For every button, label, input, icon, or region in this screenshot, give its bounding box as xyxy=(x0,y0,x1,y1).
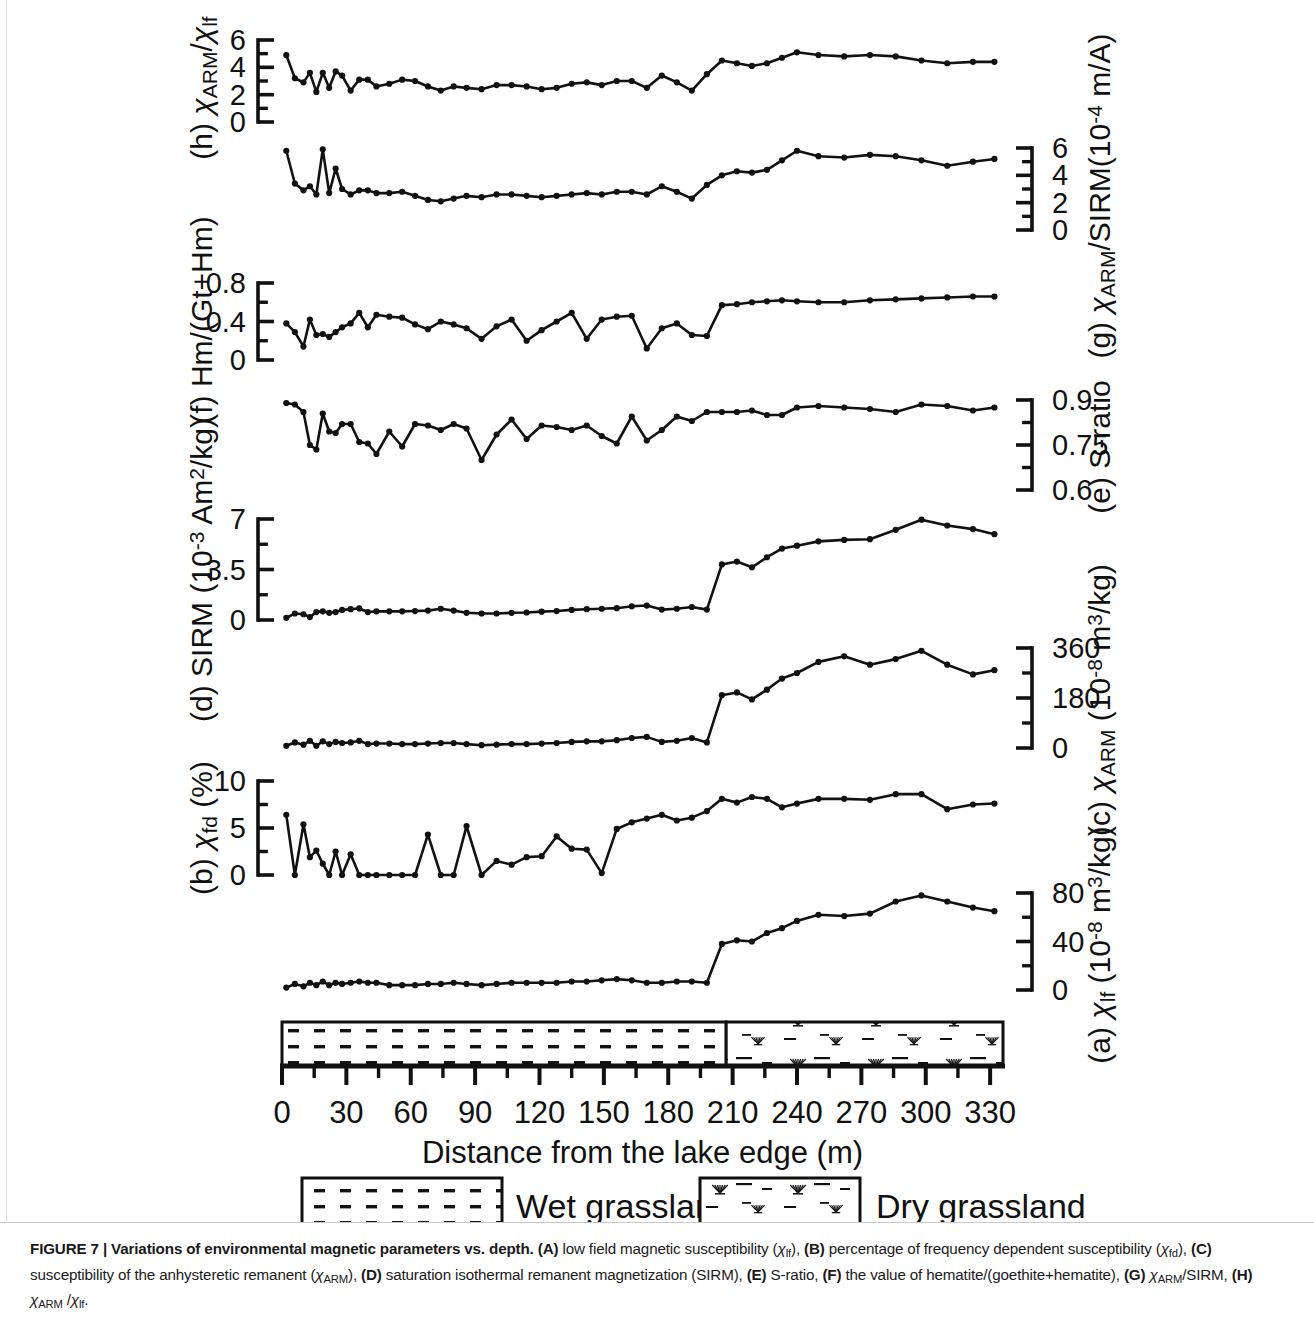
data-point-g xyxy=(689,195,695,201)
data-point-g xyxy=(373,190,379,196)
x-tick-label: 60 xyxy=(394,1095,428,1130)
data-point-c xyxy=(719,692,725,698)
data-point-h xyxy=(815,52,821,58)
data-point-a xyxy=(584,978,590,984)
data-point-h xyxy=(399,77,405,83)
data-point-a xyxy=(365,980,371,986)
data-point-d xyxy=(944,522,950,528)
data-point-b xyxy=(719,796,725,802)
multi-panel-line-chart: 0246024600.40.80.60.750.903.570180360051… xyxy=(0,0,1314,1222)
data-point-a xyxy=(451,980,457,986)
data-point-b xyxy=(704,808,710,814)
data-point-f xyxy=(893,296,899,302)
data-point-e xyxy=(425,422,431,428)
data-point-c xyxy=(320,738,326,744)
data-point-f xyxy=(478,336,484,342)
panel-g: 0246 xyxy=(283,132,1068,246)
data-point-c xyxy=(629,735,635,741)
data-point-d xyxy=(704,607,710,613)
data-point-f xyxy=(779,297,785,303)
y-tick-label-a: 80 xyxy=(1052,877,1084,909)
data-point-g xyxy=(841,154,847,160)
data-point-e xyxy=(348,421,354,427)
data-point-d xyxy=(991,531,997,537)
data-point-a xyxy=(283,984,289,990)
data-point-b xyxy=(970,801,976,807)
panel-h: 0246 xyxy=(230,24,998,138)
data-line-e xyxy=(286,403,994,460)
x-tick-label: 30 xyxy=(329,1095,363,1130)
data-point-c xyxy=(970,671,976,677)
data-point-h xyxy=(509,82,515,88)
panel-label-a: (a) χlf (10-8 m3/kg) xyxy=(1083,826,1119,1063)
data-point-f xyxy=(689,332,695,338)
data-point-a xyxy=(970,904,976,910)
data-point-e xyxy=(451,421,457,427)
data-point-g xyxy=(478,194,484,200)
x-tick-label: 120 xyxy=(514,1095,566,1130)
data-point-c xyxy=(333,739,339,745)
data-point-f xyxy=(867,297,873,303)
data-point-f xyxy=(539,327,545,333)
data-point-b xyxy=(478,872,484,878)
data-point-f xyxy=(841,299,847,305)
data-point-c xyxy=(991,667,997,673)
data-point-g xyxy=(584,190,590,196)
data-point-c xyxy=(614,737,620,743)
data-point-e xyxy=(307,442,313,448)
data-point-g xyxy=(300,187,306,193)
data-point-a xyxy=(463,981,469,987)
data-point-b xyxy=(991,800,997,806)
data-point-c xyxy=(493,742,499,748)
data-point-h xyxy=(689,87,695,93)
data-point-a xyxy=(524,980,530,986)
data-point-g xyxy=(764,167,770,173)
data-point-d xyxy=(425,608,431,614)
y-axis-g: 0246 xyxy=(1016,132,1068,246)
y-tick-label-a: 40 xyxy=(1052,926,1084,958)
data-point-b xyxy=(451,872,457,878)
data-point-c xyxy=(292,739,298,745)
panel-label-h: (h) χARM/χlf xyxy=(185,16,221,159)
data-point-h xyxy=(365,77,371,83)
data-point-g xyxy=(425,197,431,203)
data-point-a xyxy=(599,977,605,983)
data-point-f xyxy=(764,298,770,304)
data-point-b xyxy=(399,872,405,878)
panel-label-b: (b) χfd (%) xyxy=(185,761,221,895)
data-point-f xyxy=(734,301,740,307)
data-point-h xyxy=(704,71,710,77)
data-point-e xyxy=(719,409,725,415)
data-point-d xyxy=(893,527,899,533)
data-point-e xyxy=(365,440,371,446)
data-point-a xyxy=(734,937,740,943)
data-line-d xyxy=(286,520,994,618)
data-point-a xyxy=(764,930,770,936)
data-point-a xyxy=(704,980,710,986)
data-point-e xyxy=(478,457,484,463)
data-point-e xyxy=(386,428,392,434)
y-tick-label-b: 10 xyxy=(214,765,246,797)
data-point-b xyxy=(841,796,847,802)
data-point-a xyxy=(373,980,379,986)
data-point-c xyxy=(326,741,332,747)
data-point-c xyxy=(313,743,319,749)
data-point-e xyxy=(991,404,997,410)
data-point-e xyxy=(704,409,710,415)
x-tick-label: 150 xyxy=(578,1095,630,1130)
data-point-g xyxy=(867,152,873,158)
data-point-g xyxy=(509,191,515,197)
legend-label-dry-grassland: Dry grassland xyxy=(876,1187,1086,1222)
data-point-f xyxy=(524,338,530,344)
data-point-c xyxy=(438,740,444,746)
data-point-b xyxy=(554,833,560,839)
data-point-g xyxy=(629,189,635,195)
data-point-b xyxy=(734,800,740,806)
y-tick-label-f: 0 xyxy=(230,344,246,376)
data-point-g xyxy=(719,172,725,178)
data-point-f xyxy=(493,323,499,329)
data-point-e xyxy=(815,403,821,409)
x-tick-label: 240 xyxy=(771,1095,823,1130)
data-point-g xyxy=(348,191,354,197)
data-point-b xyxy=(539,853,545,859)
